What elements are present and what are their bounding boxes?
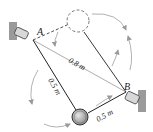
wall-mount-a	[9, 22, 29, 40]
label-b: B	[124, 81, 130, 92]
sphere	[72, 109, 88, 125]
dimension-ab: 0.8 m	[67, 56, 87, 73]
sphere-upper-position	[67, 10, 89, 32]
wall-mount-b	[124, 90, 146, 112]
dimension-a-sphere: 0.5 m	[46, 77, 63, 97]
dimension-sphere-b: 0.5 m	[95, 107, 115, 123]
label-a: A	[36, 26, 44, 37]
rod-upper-b	[84, 32, 126, 92]
rod-a-sphere	[33, 40, 76, 110]
pendulum-diagram: A B 0.8 m 0.5 m 0.5 m	[0, 0, 153, 132]
